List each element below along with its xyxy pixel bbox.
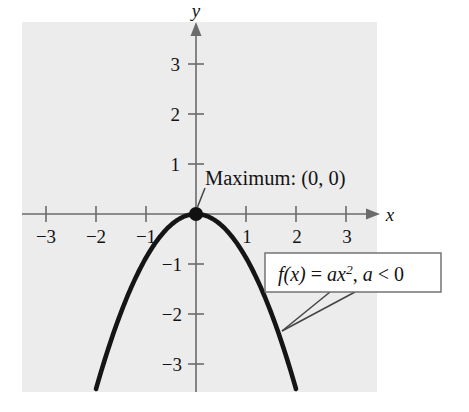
quadratic-function-figure: −3 −2 −1 1 2 3 3 2 1 −1 −2 −3 x y Maximu…: [0, 0, 469, 412]
y-tick-label-3: 3: [171, 54, 181, 75]
formula-text: f(x) = ax2, a < 0: [278, 262, 404, 286]
formula-coef-a: a: [327, 263, 337, 285]
x-tick-label--2: −2: [86, 226, 106, 247]
vertex-point-marker: [189, 207, 203, 221]
maximum-annotation-label: Maximum: (0, 0): [205, 167, 346, 190]
x-tick-label-2: 2: [292, 226, 302, 247]
plot-background-panel: [22, 22, 377, 392]
x-tick-label--3: −3: [36, 226, 56, 247]
y-tick-label--2: −2: [162, 304, 182, 325]
x-axis-label: x: [385, 204, 395, 225]
y-tick-label-2: 2: [171, 104, 181, 125]
y-tick-label-1: 1: [171, 154, 181, 175]
formula-a-second: a: [363, 263, 373, 285]
formula-equals: =: [306, 263, 327, 285]
formula-comma: ,: [353, 263, 363, 285]
y-tick-label--3: −3: [162, 354, 182, 375]
x-tick-label-3: 3: [342, 226, 352, 247]
formula-arg: (x): [284, 263, 307, 286]
y-axis-label: y: [190, 0, 201, 21]
y-tick-label--1: −1: [162, 254, 182, 275]
x-tick-label-1: 1: [242, 226, 252, 247]
formula-inequality: < 0: [373, 263, 404, 285]
formula-var-x: x: [336, 263, 346, 285]
